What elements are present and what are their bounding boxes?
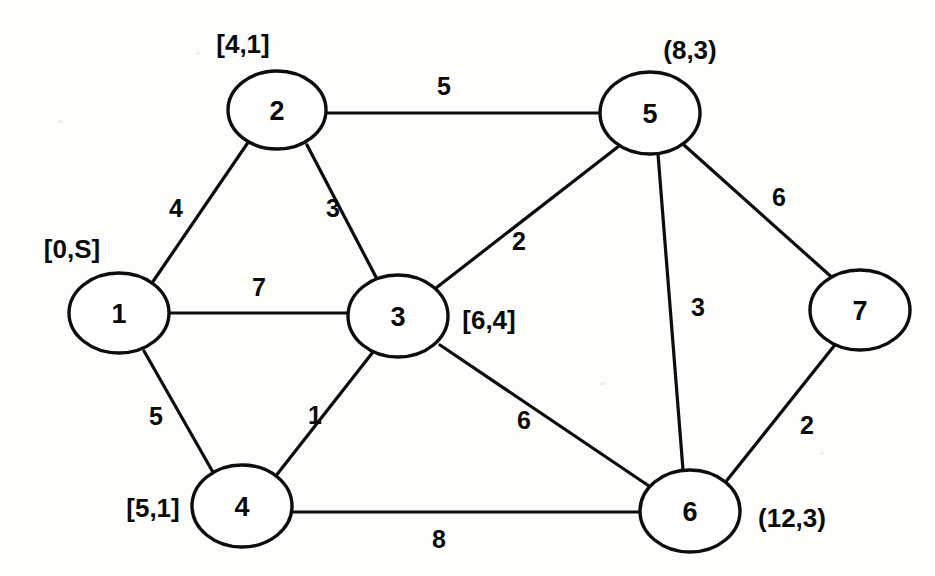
graph-edge-5-7: [684, 145, 836, 281]
paper-speck: [58, 120, 63, 123]
paper-speck: [196, 52, 200, 55]
edge-weight-label-2-5: 5: [437, 72, 451, 100]
edge-weight-label-5-6: 3: [691, 293, 705, 321]
paper-speck: [820, 452, 824, 455]
graph-edge-2-3: [307, 145, 377, 279]
graph-node-label-5: 5: [642, 99, 657, 129]
graph-edge-3-6: [440, 345, 649, 486]
edge-weight-label-1-3: 7: [252, 273, 266, 301]
graph-edge-5-6: [658, 154, 683, 470]
edge-weight-label-3-5: 2: [512, 227, 526, 255]
node-annotation-6: (12,3): [758, 503, 826, 533]
node-annotation-3: [6,4]: [462, 305, 515, 335]
graph-node-label-3: 3: [390, 302, 405, 332]
graph-node-label-2: 2: [269, 96, 284, 126]
node-annotation-labels-layer: [0,S][4,1][6,4][5,1](8,3)(12,3): [44, 29, 826, 533]
graph-svg: 1234567 475352163682 [0,S][4,1][6,4][5,1…: [0, 0, 935, 576]
node-annotation-4: [5,1]: [126, 493, 179, 523]
graph-node-label-1: 1: [111, 299, 126, 329]
edge-weight-label-5-7: 6: [772, 183, 786, 211]
node-annotation-5: (8,3): [663, 35, 716, 65]
paper-speck: [600, 382, 605, 385]
graph-edge-3-4: [275, 352, 373, 477]
edge-weight-label-1-4: 5: [149, 402, 163, 430]
graph-edge-3-5: [436, 146, 619, 288]
graph-edge-6-7: [724, 341, 838, 484]
graph-node-label-6: 6: [682, 497, 697, 527]
graph-edge-1-2: [152, 141, 249, 283]
graph-diagram-canvas: 1234567 475352163682 [0,S][4,1][6,4][5,1…: [0, 0, 935, 576]
paper-speck: [351, 290, 355, 294]
edge-weight-label-3-4: 1: [308, 401, 322, 429]
edge-weight-label-3-6: 6: [517, 406, 531, 434]
node-annotation-1: [0,S]: [44, 234, 100, 264]
edge-weight-label-4-6: 8: [432, 525, 446, 553]
edge-weight-label-2-3: 3: [326, 194, 340, 222]
node-annotation-2: [4,1]: [216, 29, 269, 59]
edge-weight-label-6-7: 2: [800, 411, 814, 439]
graph-node-label-7: 7: [852, 296, 867, 326]
edge-weight-label-1-2: 4: [169, 194, 183, 222]
graph-node-label-4: 4: [234, 492, 249, 522]
